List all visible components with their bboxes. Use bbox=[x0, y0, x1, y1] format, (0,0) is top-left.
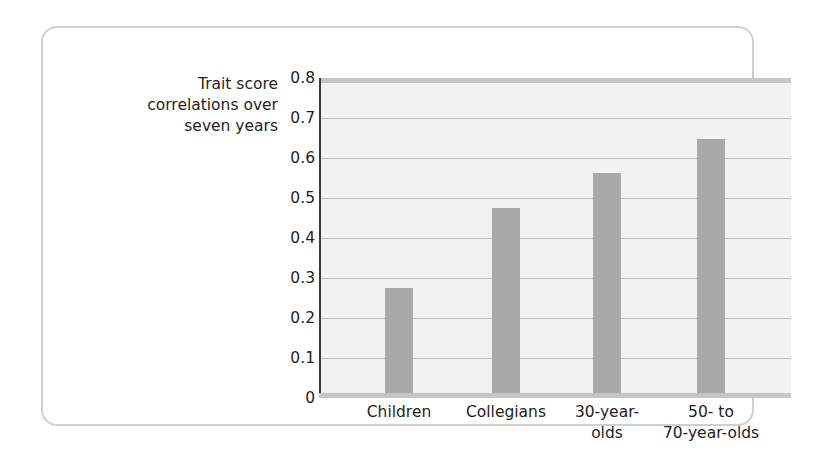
y-tick-label-0-2: 0.2 bbox=[269, 309, 315, 327]
y-tick-label-0: 0 bbox=[269, 389, 315, 407]
plot-top-band bbox=[319, 78, 791, 83]
bar-30-year-olds bbox=[593, 173, 621, 395]
y-tick-label-0-4: 0.4 bbox=[269, 229, 315, 247]
bar-collegians bbox=[492, 208, 520, 395]
y-axis-caption: Trait score correlations over seven year… bbox=[93, 74, 278, 137]
y-tick-label-0-7: 0.7 bbox=[269, 109, 315, 127]
x-axis-baseline bbox=[319, 393, 791, 398]
y-tick-label-0-5: 0.5 bbox=[269, 189, 315, 207]
bar-50-to-70-year-olds bbox=[697, 139, 725, 395]
x-tick-label-50-to-70-year-olds: 50- to 70-year-olds bbox=[651, 402, 771, 444]
y-tick-label-0-1: 0.1 bbox=[269, 349, 315, 367]
y-tick-label-0-6: 0.6 bbox=[269, 149, 315, 167]
x-tick-label-30-year-olds: 30-year- olds bbox=[547, 402, 667, 444]
y-axis-tick-labels: 0 0.1 0.2 0.3 0.4 0.5 0.6 0.7 0.8 bbox=[265, 78, 315, 398]
plot-area bbox=[319, 78, 791, 398]
x-tick-label-children: Children bbox=[339, 402, 459, 423]
figure-card: Trait score correlations over seven year… bbox=[41, 26, 754, 426]
bar-children bbox=[385, 288, 413, 395]
gridline-0-8 bbox=[321, 118, 791, 119]
y-tick-label-0-3: 0.3 bbox=[269, 269, 315, 287]
x-axis-tick-labels: Children Collegians 30-year- olds 50- to… bbox=[319, 402, 791, 452]
y-tick-label-0-8: 0.8 bbox=[269, 69, 315, 87]
